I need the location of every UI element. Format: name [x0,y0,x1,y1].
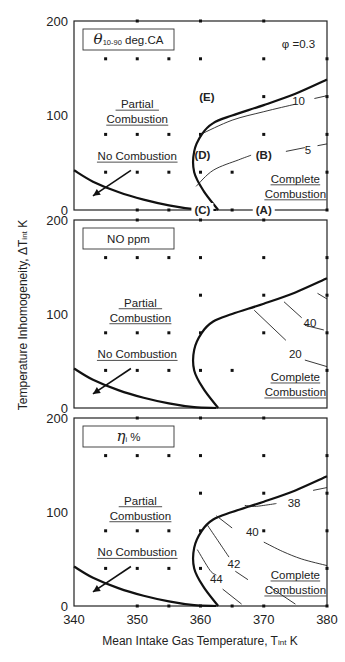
data-point [136,567,139,570]
combustion-regime-chart: 0100200θ10-90 deg.CAφ =0.3105PartialComb… [0,0,345,662]
data-point [262,492,265,495]
contour-line-10 [201,104,296,134]
data-point [326,294,329,297]
data-point [136,454,139,457]
data-point [231,369,234,372]
operating-point-label: (A) [256,204,272,216]
data-point [104,369,107,372]
contour-label: 38 [288,497,301,509]
data-point [262,605,265,608]
data-point [199,294,202,297]
x-tick-label: 350 [126,612,148,627]
data-point [199,219,202,222]
region-label: Partial [124,495,157,507]
data-point [167,209,170,212]
contour-label: 10 [292,95,305,107]
data-point [167,133,170,136]
data-point [199,567,202,570]
data-point [199,492,202,495]
data-point [262,57,265,60]
data-point [262,454,265,457]
contour-line [284,302,302,318]
data-point [262,219,265,222]
region-label: No Combustion [98,348,177,360]
data-point [199,57,202,60]
y-tick-label: 200 [46,213,68,228]
region-label: Complete [271,371,320,383]
data-point [231,171,234,174]
data-point [326,331,329,334]
data-point [231,209,234,212]
contour-line [305,360,327,367]
data-point [136,256,139,259]
data-point [104,256,107,259]
data-point [326,454,329,457]
contour-line [313,488,327,491]
arrow-head-icon [93,387,101,394]
arrow-head-icon [93,189,101,196]
data-point [199,369,202,372]
region-label: Combustion [110,510,171,522]
x-tick-label: 380 [316,612,338,627]
data-point [167,331,170,334]
data-point [326,133,329,136]
data-point [326,492,329,495]
contour-label: 20 [289,348,302,360]
data-point [136,209,139,212]
region-label: Combustion [265,386,326,398]
contour-line-5 [286,148,305,152]
panel-no: 0100200NO ppm4020PartialCombustionNo Com… [46,213,328,416]
data-point [167,256,170,259]
data-point [199,20,202,23]
contour-line [207,524,229,557]
y-axis-label: Temperature Inhomogeneity, ΔTint K [16,220,30,410]
data-point [104,567,107,570]
region-label: Complete [271,569,320,581]
data-point [326,567,329,570]
data-point [262,20,265,23]
data-point [136,605,139,608]
region-label: No Combustion [98,150,177,162]
data-point [167,57,170,60]
x-tick-label: 360 [190,612,212,627]
panel-theta: 0100200θ10-90 deg.CAφ =0.3105PartialComb… [46,14,328,218]
contour-label: 44 [210,573,223,585]
data-point [262,294,265,297]
contour-line [264,542,327,566]
data-point [262,529,265,532]
data-point [167,529,170,532]
panel-title: NO ppm [107,233,150,245]
contour-line [223,589,242,604]
data-point [262,256,265,259]
data-point [199,256,202,259]
y-tick-label: 100 [46,505,68,520]
data-point [326,369,329,372]
data-point [326,605,329,608]
operating-point-label: (C) [194,204,210,216]
data-point [326,171,329,174]
x-tick-label: 340 [63,612,85,627]
y-tick-label: 100 [46,108,68,123]
data-point [136,369,139,372]
data-point [104,454,107,457]
data-point [104,529,107,532]
data-point [326,209,329,212]
region-label: Combustion [110,312,171,324]
contour-line-5 [318,144,328,146]
data-point [199,454,202,457]
data-point [199,171,202,174]
x-axis-label: Mean Intake Gas Temperature, Tint K [102,634,297,648]
data-point [262,95,265,98]
y-tick-label: 100 [46,307,68,322]
region-label: Partial [121,98,154,110]
operating-point-label: (E) [199,91,215,103]
panel-eta: 0100200340350360370380ηi %38404244Partia… [46,411,338,628]
region-label: Combustion [265,584,326,596]
data-point [136,219,139,222]
contour-label: 5 [305,144,311,156]
data-point [167,369,170,372]
contour-label: 40 [304,317,317,329]
data-point [104,133,107,136]
y-tick-label: 200 [46,411,68,426]
x-tick-label: 370 [253,612,275,627]
